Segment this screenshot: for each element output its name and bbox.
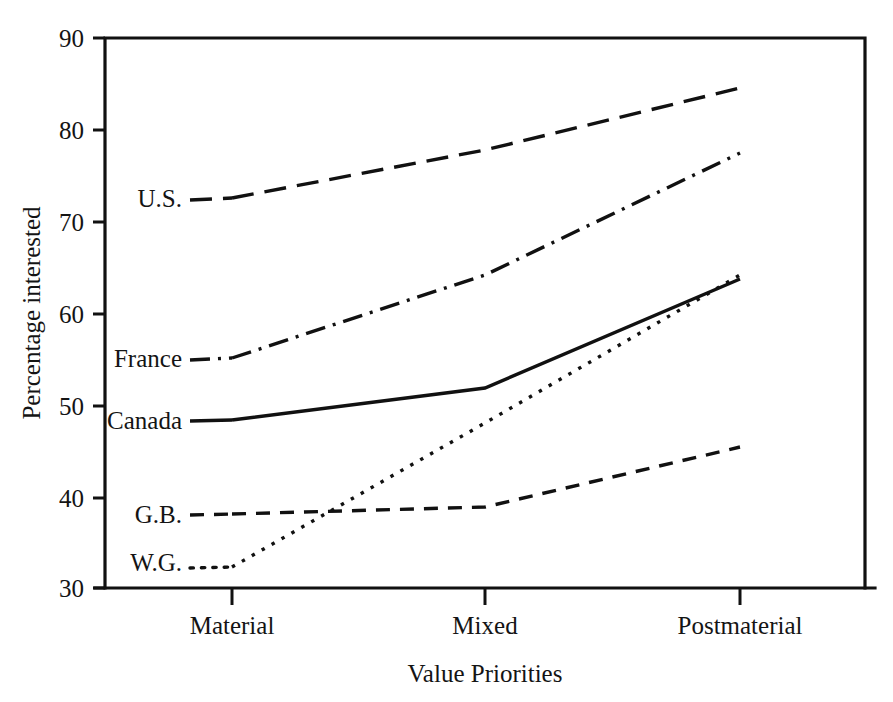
leader-canada [190,420,232,421]
leader-gb [190,514,232,515]
series-line-gb [232,447,740,514]
x-axis-tick-labels: Material Mixed Postmaterial [190,612,803,639]
series-label-france: France [114,345,182,372]
series-line-wg [232,275,740,567]
y-axis-title: Percentage interested [18,206,45,420]
y-tick-label-80: 80 [59,117,84,144]
label-leader-lines [190,198,232,568]
leader-wg [190,567,232,568]
y-axis-ticks [93,38,105,588]
y-tick-label-60: 60 [59,301,84,328]
data-series-group [232,88,740,567]
series-label-us: U.S. [138,185,182,212]
series-line-us [232,88,740,198]
x-tick-label-postmaterial: Postmaterial [678,612,803,639]
y-tick-label-70: 70 [59,209,84,236]
series-label-gb: G.B. [135,501,182,528]
line-chart: 90 80 70 60 50 40 30 Material Mixed Post… [0,0,893,702]
chart-figure: 90 80 70 60 50 40 30 Material Mixed Post… [0,0,893,702]
leader-us [190,198,232,200]
x-axis-title: Value Priorities [408,660,563,687]
y-tick-label-90: 90 [59,25,84,52]
leader-france [190,358,232,360]
series-line-canada [232,279,740,420]
x-tick-label-material: Material [190,612,275,639]
y-tick-label-30: 30 [59,575,84,602]
y-axis-tick-labels: 90 80 70 60 50 40 30 [59,25,84,602]
series-label-canada: Canada [107,407,182,434]
series-labels-group: U.S. France Canada G.B. W.G. [107,185,182,576]
y-tick-label-50: 50 [59,393,84,420]
x-axis-ticks [232,588,740,605]
series-label-wg: W.G. [130,549,182,576]
x-tick-label-mixed: Mixed [452,612,518,639]
y-tick-label-40: 40 [59,485,84,512]
